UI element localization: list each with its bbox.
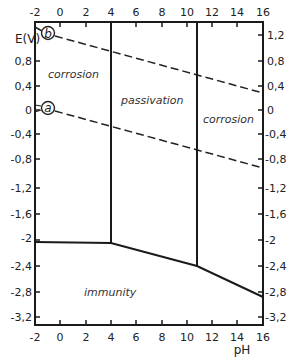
pourbaix-diagram: -2 0 2 4 6 8 10 12 14 16 -2 0 2 4 6 8 10…	[0, 0, 296, 362]
svg-text:-2,4: -2,4	[265, 260, 286, 273]
svg-text:0: 0	[57, 331, 64, 344]
svg-text:b: b	[44, 27, 52, 41]
x-axis-title: pH	[234, 343, 251, 357]
left-y-tick-labels: 0,8 0,4 0 -0,4 -0,8 -1,2 -1,6 -2 -2,4 -2…	[11, 55, 32, 324]
svg-text:a: a	[44, 101, 51, 115]
svg-text:6: 6	[133, 331, 140, 344]
immunity-boundary	[35, 242, 263, 297]
svg-text:-2,8: -2,8	[265, 286, 286, 299]
svg-text:-2,8: -2,8	[11, 286, 32, 299]
svg-text:-2: -2	[30, 6, 41, 19]
svg-text:4: 4	[108, 6, 115, 19]
svg-text:6: 6	[133, 6, 140, 19]
svg-text:10: 10	[180, 331, 194, 344]
svg-text:0,4: 0,4	[267, 80, 285, 93]
right-y-tick-labels: 1,2 0,8 0,4 0 -0,4 -0,8 -1,2 -1,6 -2 -2,…	[265, 29, 286, 324]
svg-text:0: 0	[267, 104, 274, 117]
svg-text:-0,8: -0,8	[11, 153, 32, 166]
svg-text:-0,8: -0,8	[265, 153, 286, 166]
svg-text:4: 4	[108, 331, 115, 344]
svg-text:-3,2: -3,2	[265, 311, 286, 324]
svg-text:-3,2: -3,2	[11, 311, 32, 324]
svg-text:-1,6: -1,6	[265, 208, 286, 221]
svg-text:-2: -2	[21, 232, 32, 245]
svg-text:-1,2: -1,2	[265, 182, 286, 195]
region-corrosion-alkaline: corrosion	[203, 113, 254, 126]
svg-text:-0,4: -0,4	[11, 128, 32, 141]
region-corrosion-acid: corrosion	[48, 68, 99, 81]
svg-text:0,4: 0,4	[15, 80, 33, 93]
line-b-dashed	[55, 36, 263, 93]
region-passivation: passivation	[120, 94, 184, 107]
svg-text:0,8: 0,8	[15, 55, 33, 68]
label-a-circle: a	[42, 101, 55, 115]
svg-text:8: 8	[159, 331, 166, 344]
svg-text:2: 2	[83, 6, 90, 19]
svg-text:12: 12	[205, 6, 219, 19]
svg-text:2: 2	[83, 331, 90, 344]
svg-text:8: 8	[159, 6, 166, 19]
svg-text:16: 16	[256, 6, 270, 19]
svg-text:12: 12	[205, 331, 219, 344]
svg-text:1,2: 1,2	[267, 29, 285, 42]
svg-text:0: 0	[57, 6, 64, 19]
svg-text:0,8: 0,8	[267, 55, 285, 68]
svg-text:16: 16	[256, 331, 270, 344]
top-x-tick-labels: -2 0 2 4 6 8 10 12 14 16	[30, 6, 270, 19]
y-axis-title: E(V)	[15, 32, 40, 46]
svg-text:-1,2: -1,2	[11, 182, 32, 195]
svg-text:14: 14	[230, 6, 244, 19]
svg-text:-2: -2	[30, 331, 41, 344]
svg-text:-2: -2	[265, 234, 276, 247]
svg-text:-2,4: -2,4	[11, 260, 32, 273]
label-b-circle: b	[42, 27, 55, 41]
svg-text:-1,6: -1,6	[11, 208, 32, 221]
region-immunity: immunity	[84, 286, 137, 299]
svg-text:-0,4: -0,4	[265, 128, 286, 141]
svg-text:10: 10	[180, 6, 194, 19]
svg-text:0: 0	[25, 104, 32, 117]
line-b-lead	[35, 27, 42, 31]
